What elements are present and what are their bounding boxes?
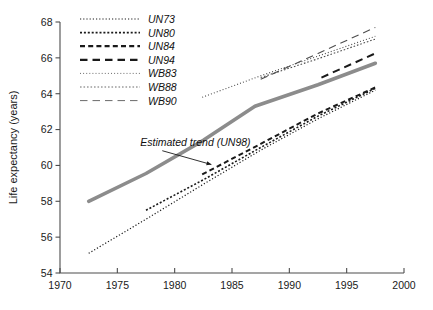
- y-tick-label: 66: [41, 52, 53, 64]
- x-tick-label: 1990: [278, 279, 302, 291]
- y-tick-label: 60: [41, 159, 53, 171]
- y-tick-label: 62: [41, 123, 53, 135]
- legend-label-un94[interactable]: UN94: [148, 54, 175, 66]
- x-tick-label: 1985: [220, 279, 244, 291]
- chart-figure: 5456586062646668197019751980198519901995…: [0, 0, 433, 310]
- y-tick-label: 64: [41, 88, 53, 100]
- chart-axes: 5456586062646668197019751980198519901995…: [41, 16, 416, 291]
- legend-label-un80[interactable]: UN80: [148, 27, 175, 39]
- x-tick-label: 1970: [48, 279, 72, 291]
- chart-annotation: Estimated trend (UN98): [140, 136, 250, 165]
- chart-legend: UN73UN80UN84UN94WB83WB88WB90: [80, 13, 177, 107]
- legend-label-wb90[interactable]: WB90: [148, 95, 177, 107]
- x-tick-label: 2000: [392, 279, 416, 291]
- annotation-arrowhead: [206, 161, 211, 165]
- x-axis-ticks: 1970197519801985199019952000: [48, 268, 416, 291]
- y-axis-title: Life expectancy (years): [7, 91, 19, 205]
- y-axis-ticks: 5456586062646668: [41, 16, 60, 279]
- x-tick-label: 1975: [106, 279, 130, 291]
- life-expectancy-line-chart: 5456586062646668197019751980198519901995…: [0, 0, 433, 310]
- legend-label-wb83[interactable]: WB83: [148, 67, 177, 79]
- series-line-un98: [89, 63, 376, 201]
- y-tick-label: 68: [41, 16, 53, 28]
- legend-label-un73[interactable]: UN73: [148, 13, 175, 25]
- x-tick-label: 1980: [163, 279, 187, 291]
- y-tick-label: 54: [41, 267, 53, 279]
- series-line-un73: [89, 90, 376, 253]
- legend-label-un84[interactable]: UN84: [148, 40, 175, 52]
- x-tick-label: 1995: [335, 279, 359, 291]
- annotation-label: Estimated trend (UN98): [140, 136, 250, 148]
- legend-label-wb88[interactable]: WB88: [148, 81, 177, 93]
- series-line-un80: [146, 88, 375, 210]
- y-tick-label: 58: [41, 195, 53, 207]
- y-tick-label: 56: [41, 231, 53, 243]
- annotation-arrow-line: [162, 151, 211, 165]
